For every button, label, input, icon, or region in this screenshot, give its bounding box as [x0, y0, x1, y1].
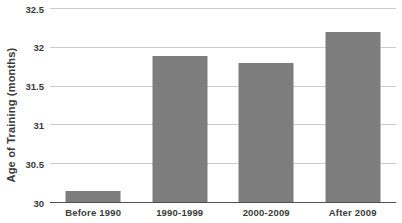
bar-slot [50, 9, 137, 203]
y-tick-label: 32 [0, 43, 44, 53]
x-axis-baseline [50, 202, 396, 203]
plot-area [50, 9, 396, 203]
bar-after-2009 [325, 32, 380, 203]
bar-1990-1999 [152, 56, 207, 203]
y-axis-ticks: 3030.53131.53232.5 [0, 9, 44, 203]
bar-slot [137, 9, 224, 203]
y-tick-label: 31.5 [0, 82, 44, 92]
y-tick-label: 30.5 [0, 159, 44, 169]
y-tick-label: 32.5 [0, 4, 44, 14]
y-tick-label: 30 [0, 198, 44, 208]
bars-layer [50, 9, 396, 203]
x-category-label: Before 1990 [50, 207, 137, 218]
y-tick-label: 31 [0, 121, 44, 131]
bar-chart: TRAINING COMPLETED. Age of Training (mon… [0, 0, 402, 223]
bar-2000-2009 [239, 63, 294, 203]
x-category-label: 2000-2009 [223, 207, 310, 218]
x-axis-labels: Before 19901990-19992000-2009After 2009 [50, 207, 396, 218]
x-category-label: After 2009 [310, 207, 397, 218]
x-category-label: 1990-1999 [137, 207, 224, 218]
bar-slot [310, 9, 397, 203]
bar-slot [223, 9, 310, 203]
chart-title: TRAINING COMPLETED. [0, 0, 398, 2]
